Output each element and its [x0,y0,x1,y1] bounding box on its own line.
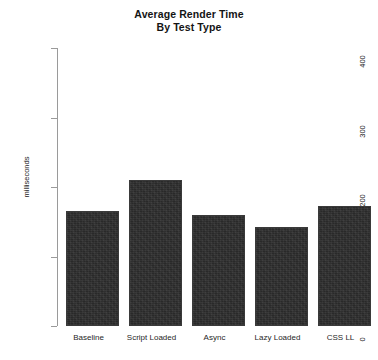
bar [66,211,119,326]
chart-title-line2: By Test Type [0,21,378,34]
x-axis-category-labels: BaselineScript LoadedAsyncLazy LoadedCSS… [57,333,372,351]
chart-title: Average Render Time By Test Type [0,8,378,34]
bar [255,227,308,326]
x-category-label: CSS LL [309,333,372,342]
bar [129,180,182,326]
chart-title-line1: Average Render Time [134,8,243,20]
x-category-label: Baseline [57,333,120,342]
bar [192,215,245,326]
x-category-label: Lazy Loaded [246,333,309,342]
plot-area: 0100200300400 [57,44,372,330]
y-axis-label-text: milliseconds [22,137,31,217]
x-category-label: Async [183,333,246,342]
bar-series [57,44,372,330]
bar [318,206,371,326]
bar-chart: Average Render Time By Test Type millise… [0,0,378,360]
x-category-label: Script Loaded [120,333,183,342]
y-axis-label: milliseconds [12,63,21,143]
